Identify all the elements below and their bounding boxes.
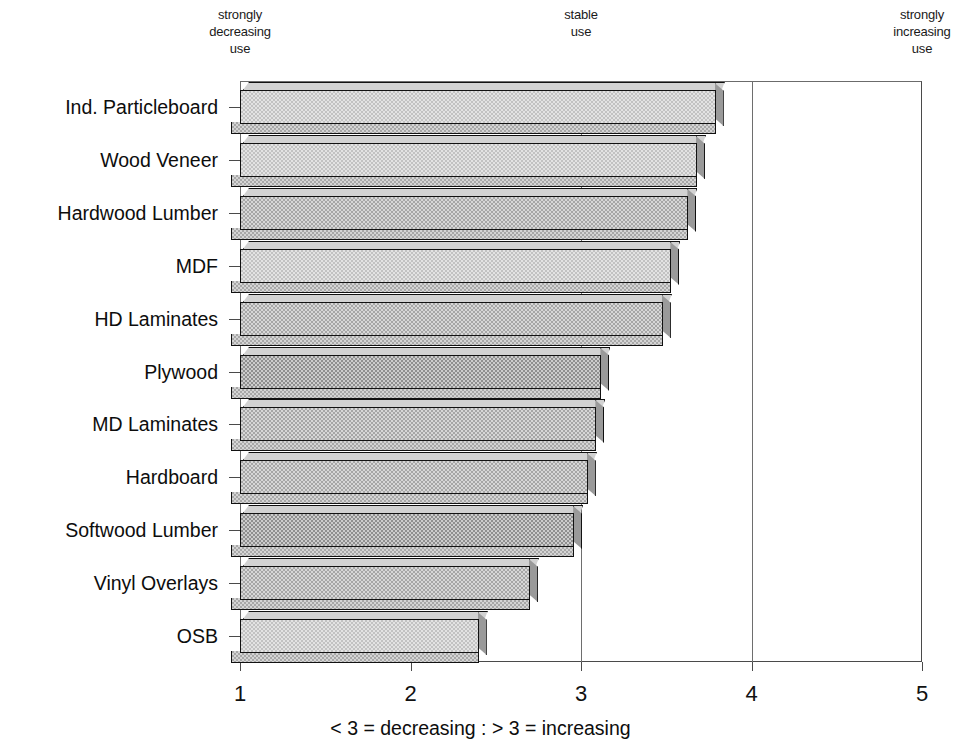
category-label: Softwood Lumber — [0, 519, 218, 541]
bar-top-face — [243, 188, 697, 196]
category-label: OSB — [0, 625, 218, 647]
y-tick-mark — [229, 266, 240, 267]
y-tick-mark — [229, 477, 240, 478]
bar-plywood — [240, 355, 601, 389]
chart-canvas: strongly decreasing use stable use stron… — [0, 0, 961, 753]
bar-front-face — [240, 249, 671, 283]
bar-top-face — [243, 452, 597, 460]
bar-wood-veneer — [240, 143, 697, 177]
x-tick-mark-5 — [922, 662, 923, 671]
bar-top-face — [243, 241, 680, 249]
bar-front-face — [240, 355, 601, 389]
bar-md-laminates — [240, 407, 596, 441]
bar-front-face — [240, 566, 530, 600]
y-tick-mark — [229, 107, 240, 108]
bar-top-face — [243, 347, 610, 355]
anchor-label-strongly-increasing: strongly increasing use — [837, 6, 961, 57]
bar-top-face — [243, 611, 488, 619]
bar-vinyl-overlays — [240, 566, 530, 600]
category-label: Vinyl Overlays — [0, 572, 218, 594]
x-tick-mark-4 — [752, 662, 753, 671]
bar-mdf — [240, 249, 671, 283]
y-tick-mark — [229, 160, 240, 161]
x-tick-label-4: 4 — [745, 683, 757, 705]
category-label: Ind. Particleboard — [0, 96, 218, 118]
bar-front-face — [240, 460, 588, 494]
bar-hardwood-lumber — [240, 196, 688, 230]
x-axis-caption: < 3 = decreasing : > 3 = increasing — [0, 717, 961, 739]
y-tick-mark — [229, 636, 240, 637]
x-tick-mark-2 — [411, 662, 412, 671]
y-tick-mark — [229, 213, 240, 214]
bar-front-face — [240, 513, 574, 547]
y-tick-mark — [229, 583, 240, 584]
gridline-x-4 — [752, 81, 753, 662]
bar-front-face — [240, 619, 479, 653]
x-tick-label-5: 5 — [916, 683, 928, 705]
bar-front-face — [240, 90, 716, 124]
bar-top-face — [243, 399, 605, 407]
x-tick-mark-1 — [240, 662, 241, 671]
bar-top-face — [243, 558, 539, 566]
bar-top-face — [243, 135, 706, 143]
anchor-label-strongly-decreasing: strongly decreasing use — [155, 6, 325, 57]
bar-softwood-lumber — [240, 513, 574, 547]
bar-hd-laminates — [240, 302, 663, 336]
category-label: HD Laminates — [0, 308, 218, 330]
bar-hardboard — [240, 460, 588, 494]
bar-front-face — [240, 196, 688, 230]
y-tick-mark — [229, 530, 240, 531]
bar-top-face — [243, 294, 672, 302]
bar-top-face — [243, 82, 725, 90]
bar-top-face — [243, 505, 583, 513]
category-label: Hardwood Lumber — [0, 202, 218, 224]
category-label: MD Laminates — [0, 413, 218, 435]
y-tick-mark — [229, 319, 240, 320]
y-tick-mark — [229, 372, 240, 373]
category-label: Wood Veneer — [0, 149, 218, 171]
bar-front-face — [240, 143, 697, 177]
bar-front-face — [240, 407, 596, 441]
bar-front-face — [240, 302, 663, 336]
x-tick-label-2: 2 — [404, 683, 416, 705]
x-tick-label-3: 3 — [575, 683, 587, 705]
category-label: Hardboard — [0, 466, 218, 488]
category-label: Plywood — [0, 361, 218, 383]
category-label: MDF — [0, 255, 218, 277]
bar-ind-particleboard — [240, 90, 716, 124]
y-tick-mark — [229, 424, 240, 425]
x-tick-label-1: 1 — [234, 683, 246, 705]
anchor-label-stable: stable use — [496, 6, 666, 40]
bar-osb — [240, 619, 479, 653]
x-tick-mark-3 — [581, 662, 582, 671]
